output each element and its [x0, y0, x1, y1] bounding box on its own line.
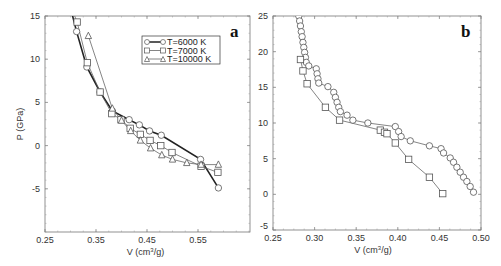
y-axis-title: P (GPa) [15, 108, 25, 140]
x-tick-label: 0.30 [306, 233, 324, 243]
x-tick-label: 0.45 [431, 233, 449, 243]
marker-square-icon [392, 140, 398, 146]
marker-triangle-icon [85, 32, 91, 38]
marker-circle-icon [146, 128, 152, 134]
y-tick-label: -5 [260, 221, 268, 231]
y-tick-label: 0 [263, 189, 268, 199]
x-tick-label: 0.45 [138, 235, 156, 245]
series-line [301, 60, 443, 194]
panel-b: 0.250.300.350.400.450.502520151050-5V (c… [258, 11, 490, 255]
marker-circle-icon [316, 80, 322, 86]
marker-square-icon [322, 104, 328, 110]
x-tick-label: 0.25 [264, 233, 282, 243]
marker-square-icon [384, 131, 390, 137]
y-tick-label: 20 [258, 47, 268, 57]
y-tick-label: 10 [30, 54, 40, 64]
y-tick-label: 5 [263, 154, 268, 164]
series-group [296, 13, 477, 197]
marker-square-icon [440, 190, 446, 196]
marker-square-icon [84, 59, 90, 65]
marker-square-icon [405, 156, 411, 162]
marker-circle-icon [467, 183, 473, 189]
marker-circle-icon [365, 120, 371, 126]
x-tick-label: 0.25 [36, 235, 54, 245]
marker-square-icon [158, 142, 164, 148]
marker-square-icon [74, 19, 80, 25]
x-tick-label: 0.40 [389, 233, 407, 243]
marker-circle-icon [350, 117, 356, 123]
marker-square-icon [297, 56, 303, 62]
marker-triangle-icon [159, 151, 165, 157]
y-tick-label: 15 [258, 82, 268, 92]
marker-circle-icon [337, 108, 343, 114]
marker-circle-icon [440, 150, 446, 156]
marker-circle-icon [136, 122, 142, 128]
y-tick-label: 5 [35, 97, 40, 107]
x-tick-label: 0.35 [87, 235, 105, 245]
figure: 0.250.350.450.55151050-5V (cm3/g)a0.250.… [0, 0, 501, 266]
marker-triangle-icon [215, 161, 221, 167]
x-tick-label: 0.35 [347, 233, 365, 243]
marker-square-icon [336, 117, 342, 123]
marker-circle-icon [407, 138, 413, 144]
marker-circle-icon [325, 83, 331, 89]
panel-label: b [461, 22, 470, 41]
marker-square-icon [215, 169, 221, 175]
marker-square-icon [97, 89, 103, 95]
x-tick-label: 0.55 [189, 235, 207, 245]
marker-circle-icon [470, 189, 476, 195]
marker-circle-icon [426, 143, 432, 149]
marker-circle-icon [215, 185, 221, 191]
marker-square-icon [304, 81, 310, 87]
y-tick-label: 10 [258, 118, 268, 128]
marker-circle-icon [398, 133, 404, 139]
y-tick-label: -5 [32, 184, 40, 194]
marker-circle-icon [73, 28, 79, 34]
y-tick-label: 15 [30, 11, 40, 21]
marker-square-icon [300, 68, 306, 74]
marker-triangle-icon [147, 144, 153, 150]
marker-square-icon [169, 149, 175, 155]
marker-square-icon [147, 137, 153, 143]
marker-circle-icon [344, 112, 350, 118]
x-tick-label: 0.50 [472, 233, 490, 243]
legend: T=6000 KT=7000 KT=10000 K [142, 36, 220, 64]
x-axis-title: V (cm3/g) [127, 247, 164, 257]
marker-circle-icon [126, 116, 132, 122]
x-axis-title: V (cm3/g) [354, 245, 391, 255]
marker-square-icon [426, 174, 432, 180]
y-tick-label: 25 [258, 11, 268, 21]
legend-label: T=10000 K [167, 54, 211, 64]
panel-label: a [230, 22, 239, 41]
marker-circle-icon [158, 132, 164, 138]
y-tick-label: 0 [35, 141, 40, 151]
